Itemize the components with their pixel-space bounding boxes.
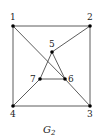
node-label-2: 2	[87, 12, 93, 22]
node-label-6: 6	[68, 74, 74, 84]
edge-5-7	[40, 52, 52, 79]
node-label-7: 7	[30, 74, 36, 84]
figure-caption: G2	[43, 124, 56, 137]
edge-7-4	[13, 79, 40, 106]
node-5	[50, 50, 54, 54]
node-label-1: 1	[10, 12, 16, 22]
edge-2-5	[52, 26, 90, 52]
edges	[13, 26, 90, 106]
graph-diagram: 1234567 G2	[0, 0, 98, 138]
node-7	[38, 77, 42, 81]
edge-1-6	[13, 26, 65, 79]
node-label-5: 5	[49, 39, 55, 49]
node-2	[88, 24, 92, 28]
node-3	[88, 104, 92, 108]
edge-5-6	[52, 52, 65, 79]
node-label-4: 4	[10, 109, 16, 119]
node-6	[63, 77, 67, 81]
node-1	[11, 24, 15, 28]
node-label-3: 3	[87, 109, 93, 119]
node-4	[11, 104, 15, 108]
